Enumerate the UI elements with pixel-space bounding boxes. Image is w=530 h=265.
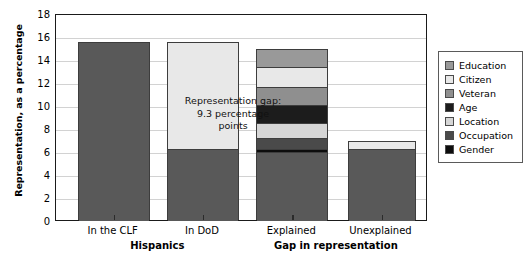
- bar-segment-citizen[interactable]: [349, 142, 415, 150]
- x-tickmark: [114, 215, 115, 220]
- legend-swatch-gender: [445, 145, 454, 154]
- bar-segment-representation[interactable]: [168, 150, 238, 221]
- y-tick-label: 12: [28, 78, 50, 89]
- plot-area: Representation gap: 9.3 percentage point…: [55, 14, 427, 221]
- y-tick-label: 0: [28, 216, 50, 227]
- bar-segment-remainder[interactable]: [349, 150, 415, 221]
- bar-segment-citizen[interactable]: [257, 68, 327, 88]
- legend-item-veteran[interactable]: Veteran: [445, 86, 517, 100]
- legend-item-age[interactable]: Age: [445, 100, 517, 114]
- bar-explained[interactable]: [256, 49, 328, 220]
- legend-swatch-education: [445, 61, 454, 70]
- x-label-in-dod: In DoD: [185, 225, 219, 236]
- legend-item-location[interactable]: Location: [445, 114, 517, 128]
- y-axis-tick-labels: 024681012141618: [28, 14, 50, 221]
- group-label-gap-in-representation: Gap in representation: [274, 240, 398, 251]
- legend-label-veteran: Veteran: [459, 88, 496, 99]
- legend-swatch-location: [445, 117, 454, 126]
- legend-label-age: Age: [459, 102, 477, 113]
- legend-label-citizen: Citizen: [459, 74, 492, 85]
- bar-segment-education[interactable]: [257, 50, 327, 68]
- legend-item-gender[interactable]: Gender: [445, 142, 517, 156]
- legend-swatch-veteran: [445, 89, 454, 98]
- legend-label-education: Education: [459, 60, 506, 71]
- y-tick-label: 6: [28, 147, 50, 158]
- legend-item-education[interactable]: Education: [445, 58, 517, 72]
- legend-swatch-age: [445, 103, 454, 112]
- x-tickmark: [382, 215, 383, 220]
- legend-label-location: Location: [459, 116, 499, 127]
- chart-container: Representation, as a percentage 02468101…: [0, 0, 530, 265]
- legend-item-citizen[interactable]: Citizen: [445, 72, 517, 86]
- y-tick-label: 4: [28, 170, 50, 181]
- x-axis-category-labels: In the CLFIn DoDExplainedUnexplained: [55, 225, 427, 239]
- y-tick-label: 8: [28, 124, 50, 135]
- bar-segment-occupation[interactable]: [257, 139, 327, 149]
- x-label-explained: Explained: [267, 225, 316, 236]
- legend-swatch-occupation: [445, 131, 454, 140]
- annotation-line-1: Representation gap:: [174, 95, 292, 108]
- annotation-line-3: points: [174, 120, 292, 133]
- y-axis-title: Representation, as a percentage: [13, 11, 24, 211]
- gridline: [56, 38, 426, 39]
- legend-label-gender: Gender: [459, 144, 494, 155]
- y-tick-label: 18: [28, 9, 50, 20]
- x-label-in-the-clf: In the CLF: [87, 225, 137, 236]
- y-tick-label: 10: [28, 101, 50, 112]
- legend-swatch-citizen: [445, 75, 454, 84]
- bar-in-the-clf[interactable]: [78, 42, 150, 220]
- chart-legend: EducationCitizenVeteranAgeLocationOccupa…: [438, 51, 523, 163]
- legend-item-occupation[interactable]: Occupation: [445, 128, 517, 142]
- y-tick-label: 2: [28, 193, 50, 204]
- legend-label-occupation: Occupation: [459, 130, 513, 141]
- x-tickmark: [203, 215, 204, 220]
- x-axis-group-labels: HispanicsGap in representation: [55, 240, 427, 254]
- bar-segment-remainder[interactable]: [257, 153, 327, 221]
- representation-gap-annotation: Representation gap: 9.3 percentage point…: [174, 95, 292, 133]
- x-tickmark: [292, 215, 293, 220]
- y-tick-label: 14: [28, 55, 50, 66]
- x-label-unexplained: Unexplained: [349, 225, 411, 236]
- bar-unexplained[interactable]: [348, 141, 416, 220]
- annotation-line-2: 9.3 percentage: [174, 108, 292, 121]
- bar-segment-representation[interactable]: [79, 43, 149, 221]
- group-label-hispanics: Hispanics: [130, 240, 184, 251]
- y-tick-label: 16: [28, 32, 50, 43]
